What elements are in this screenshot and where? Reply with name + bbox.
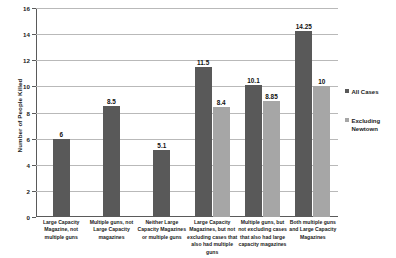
- chart-legend: All Cases Excluding Newtown: [345, 88, 396, 154]
- x-axis-category-label: Both multiple guns and Large Capacity Ma…: [288, 219, 338, 241]
- bar-value-label: 8.85: [265, 93, 277, 100]
- plot-area: 0246810121416 68.55.111.58.410.18.8514.2…: [36, 8, 338, 217]
- bar-value-label: 11.5: [197, 59, 209, 66]
- bar-value-label: 5.1: [157, 142, 166, 149]
- y-tick-label: 2: [27, 187, 30, 194]
- bar-group: 10.18.85: [237, 8, 287, 217]
- legend-item-excluding-newtown: Excluding Newtown: [345, 117, 396, 133]
- bar-value-label: 8.5: [107, 98, 116, 105]
- legend-item-all-cases: All Cases: [345, 88, 396, 96]
- y-tick-label: 4: [27, 161, 30, 168]
- x-axis-category-label: Large Capacity Magazine, not multiple gu…: [36, 219, 86, 241]
- x-axis-labels: Large Capacity Magazine, not multiple gu…: [36, 219, 338, 255]
- bar: 5.1: [153, 150, 170, 217]
- bar: 10.1: [245, 85, 262, 217]
- bar-groups: 68.55.111.58.410.18.8514.2510: [36, 8, 338, 217]
- bar-value-label: 10: [318, 78, 325, 85]
- bar: 8.85: [263, 101, 280, 217]
- bar: 11.5: [195, 67, 212, 217]
- y-tick-mark: [32, 217, 36, 218]
- bar-value-label: 8.4: [217, 99, 226, 106]
- bar-chart: Number of People Killed 0246810121416 68…: [0, 0, 396, 258]
- y-tick-label: 8: [27, 109, 30, 116]
- y-tick-label: 6: [27, 135, 30, 142]
- bar-group: 6: [36, 8, 86, 217]
- legend-label: All Cases: [352, 88, 379, 96]
- legend-swatch-icon: [345, 118, 349, 122]
- bar-group: 14.2510: [288, 8, 338, 217]
- x-axis-category-label: Large Capacity Magazines, but not exclud…: [187, 219, 237, 256]
- x-axis-category-label: Neither Large Capacity Magazines or mult…: [137, 219, 187, 241]
- bar: 6: [53, 139, 70, 217]
- bar-group: 5.1: [137, 8, 187, 217]
- y-tick-label: 16: [23, 5, 30, 12]
- bar: 8.4: [213, 107, 230, 217]
- legend-label: Excluding Newtown: [352, 117, 396, 133]
- x-axis-category-label: Multiple guns, but not excluding cases t…: [237, 219, 287, 249]
- x-axis-category-label: Multiple guns, not Large Capacity magazi…: [86, 219, 136, 241]
- y-tick-label: 12: [23, 57, 30, 64]
- bar-group: 8.5: [86, 8, 136, 217]
- y-axis-title: Number of People Killed: [16, 56, 23, 176]
- bar-value-label: 10.1: [247, 77, 259, 84]
- y-tick-label: 10: [23, 83, 30, 90]
- bar-value-label: 14.25: [296, 23, 312, 30]
- y-tick-label: 14: [23, 31, 30, 38]
- y-tick-label: 0: [27, 214, 30, 221]
- bar-group: 11.58.4: [187, 8, 237, 217]
- bar: 8.5: [103, 106, 120, 217]
- bar: 10: [313, 86, 330, 217]
- bar-value-label: 6: [59, 131, 63, 138]
- bar: 14.25: [295, 31, 312, 217]
- legend-swatch-icon: [345, 89, 349, 93]
